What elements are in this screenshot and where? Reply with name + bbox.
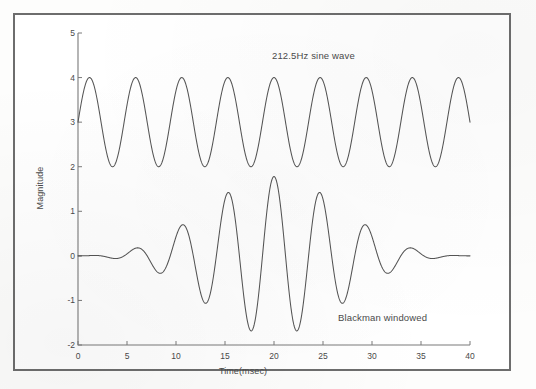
plot-canvas (0, 0, 536, 389)
blackman-annotation: Blackman windowed (338, 312, 427, 323)
y-tick-label: 2 (62, 162, 75, 172)
x-tick-label: 30 (367, 351, 376, 361)
blackman-windowed-curve (78, 177, 470, 331)
x-tick-label: 40 (465, 351, 474, 361)
x-axis-title: Time(msec) (219, 366, 267, 376)
axes (78, 33, 470, 345)
x-tick-label: 15 (220, 351, 229, 361)
x-tick-label: 25 (318, 351, 327, 361)
y-tick-label: 1 (62, 206, 75, 216)
x-tick-label: 10 (171, 351, 180, 361)
scanned-page: 212.5Hz sine wave Blackman windowed Time… (0, 0, 536, 389)
y-tick-label: -2 (62, 340, 75, 350)
x-tick-label: 35 (416, 351, 425, 361)
x-tick-label: 0 (76, 351, 81, 361)
x-tick-label: 20 (269, 351, 278, 361)
y-tick-label: 5 (62, 28, 75, 38)
tick-marks (78, 33, 470, 345)
y-tick-label: -1 (62, 295, 75, 305)
y-tick-label: 0 (62, 251, 75, 261)
y-tick-label: 3 (62, 117, 75, 127)
sine-wave-annotation: 212.5Hz sine wave (272, 50, 355, 61)
axis-lines (78, 33, 470, 345)
y-axis-title: Magnitude (35, 167, 45, 210)
y-tick-label: 4 (62, 73, 75, 83)
x-tick-label: 5 (125, 351, 130, 361)
sine-wave-curve (78, 78, 470, 167)
